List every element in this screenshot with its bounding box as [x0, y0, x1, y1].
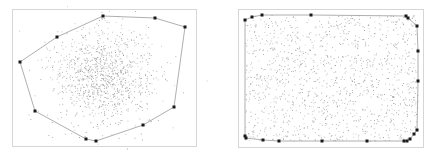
- hull-vertex-marker: [19, 61, 22, 64]
- data-points: [19, 6, 207, 149]
- hull-vertex-marker: [310, 14, 313, 17]
- convex-hull-outline: [245, 15, 418, 141]
- hull-vertex-marker: [251, 16, 254, 19]
- hull-vertex-marker: [56, 36, 59, 39]
- hull-vertex-marker: [85, 138, 88, 141]
- hull-vertex-marker: [321, 140, 324, 143]
- hull-vertex-marker: [417, 50, 420, 53]
- scatter-plot-uniform: [216, 0, 432, 152]
- hull-vertex-marker: [142, 124, 145, 127]
- scatter-plot-gaussian: [0, 0, 216, 152]
- hull-vertices: [19, 15, 187, 143]
- hull-vertex-marker: [34, 110, 37, 113]
- data-points: [245, 15, 418, 142]
- frame-border: [13, 10, 197, 147]
- hull-vertex-marker: [102, 15, 105, 18]
- hull-vertex-marker: [366, 140, 369, 143]
- panel-gaussian-hull: Gaussian distribution: [0, 0, 216, 152]
- hull-vertex-marker: [403, 140, 406, 143]
- panel-uniform-hull: Uniform distribution: [216, 0, 432, 152]
- hull-vertex-marker: [244, 19, 247, 22]
- hull-vertex-marker: [413, 133, 416, 136]
- frame-border: [239, 10, 424, 148]
- hull-vertex-marker: [154, 17, 157, 20]
- hull-vertex-marker: [417, 80, 420, 83]
- hull-vertex-marker: [416, 25, 419, 28]
- hull-vertex-marker: [407, 17, 410, 20]
- hull-vertex-marker: [406, 140, 409, 143]
- hull-vertex-marker: [95, 140, 98, 143]
- hull-vertex-marker: [409, 138, 412, 141]
- hull-vertex-marker: [262, 139, 265, 142]
- hull-vertex-marker: [173, 106, 176, 109]
- hull-vertex-marker: [261, 14, 264, 17]
- hull-vertex-marker: [184, 26, 187, 29]
- hull-vertex-marker: [278, 140, 281, 143]
- hull-vertex-marker: [416, 129, 419, 132]
- hull-vertices: [244, 14, 420, 143]
- hull-vertex-marker: [244, 135, 247, 138]
